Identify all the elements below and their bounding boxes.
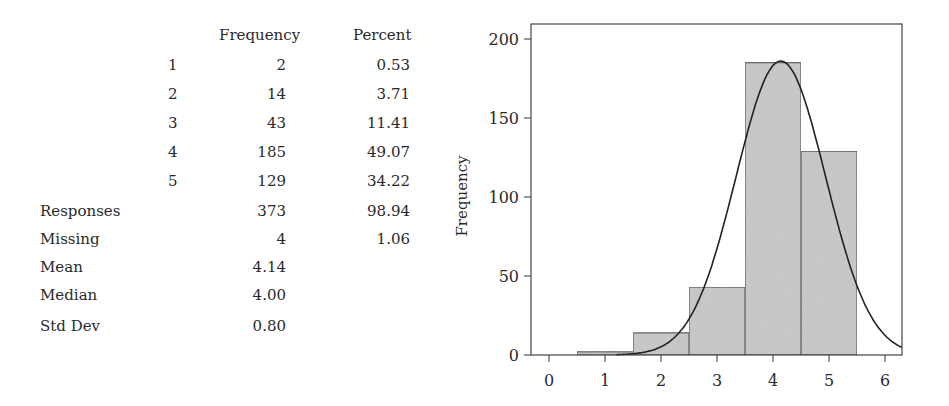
histogram-bar xyxy=(633,333,689,355)
x-tick-label: 2 xyxy=(656,371,666,390)
x-tick-label: 5 xyxy=(824,371,834,390)
x-tick-label: 1 xyxy=(600,371,610,390)
y-axis: 050100150200 xyxy=(488,30,531,365)
y-tick-label: 150 xyxy=(488,109,519,128)
histogram-bar xyxy=(745,63,801,355)
y-tick-label: 100 xyxy=(488,188,519,207)
histogram-chart: 050100150200 0123456 Frequency xyxy=(0,0,949,406)
y-axis-label: Frequency xyxy=(453,155,471,237)
histogram-bar xyxy=(689,287,745,355)
x-tick-label: 6 xyxy=(880,371,890,390)
x-tick-label: 4 xyxy=(768,371,778,390)
x-tick-label: 3 xyxy=(712,371,722,390)
x-axis: 0123456 xyxy=(544,355,890,390)
y-tick-label: 50 xyxy=(499,267,519,286)
x-tick-label: 0 xyxy=(544,371,554,390)
y-tick-label: 200 xyxy=(488,30,519,49)
y-tick-label: 0 xyxy=(509,346,519,365)
histogram-bars xyxy=(577,63,857,355)
histogram-bar xyxy=(801,151,857,355)
